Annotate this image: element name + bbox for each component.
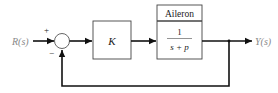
plant-title: Aileron — [165, 9, 194, 19]
output-label: Y(s) — [255, 36, 272, 48]
minus-sign: − — [49, 48, 54, 58]
block-diagram: R(s) + − K Aileron 1 s + p Y(s) — [0, 0, 278, 93]
transfer-function-denominator: s + p — [170, 42, 189, 52]
plus-sign: + — [44, 25, 49, 35]
input-label: R(s) — [11, 36, 29, 48]
controller-gain-label: K — [107, 35, 116, 47]
feedback-path — [62, 41, 229, 86]
transfer-function-numerator: 1 — [177, 27, 182, 37]
summing-junction — [55, 34, 70, 49]
